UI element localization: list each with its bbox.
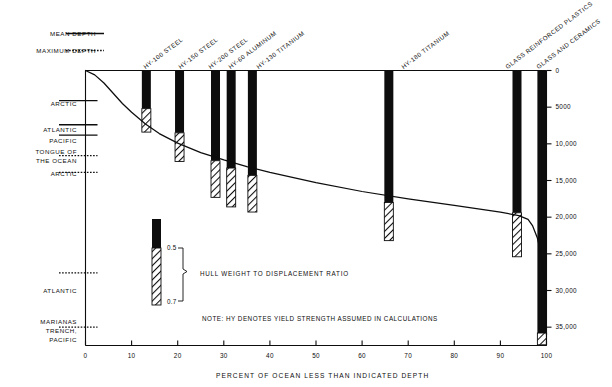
bars-layer — [142, 71, 547, 345]
bar-hatched-segment — [227, 168, 236, 207]
bar-hy-180-titanium — [384, 71, 393, 241]
bar-hatched-segment — [512, 213, 521, 257]
bar-solid-segment — [227, 71, 236, 169]
x-tick-10: 10 — [123, 352, 141, 359]
chart-note: NOTE: HY DENOTES YIELD STRENGTH ASSUMED … — [202, 315, 438, 322]
x-tick-90: 90 — [491, 352, 509, 359]
bar-hatched-segment — [384, 203, 393, 241]
ratio-legend-hatched-segment — [152, 248, 161, 305]
legend-mean-depth-label: MEAN DEPTH — [14, 30, 96, 37]
ratio-legend-solid-segment — [152, 219, 161, 248]
bar-solid-segment — [512, 71, 521, 213]
ratio-legend-graphic — [152, 219, 187, 305]
depth-label-atlantic-mean: ATLANTIC — [20, 126, 77, 133]
bar-solid-segment — [384, 71, 393, 203]
x-tick-70: 70 — [399, 352, 417, 359]
ratio-legend-caption: HULL WEIGHT TO DISPLACEMENT RATIO — [200, 270, 349, 277]
depth-label-marianas-line2: TRENCH, — [14, 327, 77, 334]
bar-hy-200-steel — [211, 71, 220, 198]
y-tick-20000: 20,000 — [556, 213, 577, 220]
bar-solid-segment — [211, 71, 220, 161]
bar-solid-segment — [175, 71, 184, 133]
y-tick-25000: 25,000 — [556, 250, 577, 257]
bar-hatched-segment — [142, 109, 151, 132]
depth-label-marianas-line1: MARIANAS — [14, 318, 77, 325]
depth-label-arctic-mean: ARCTIC — [20, 100, 77, 107]
depth-label-tongue-line1: TONGUE OF — [14, 148, 77, 155]
depth-label-tongue-line2: THE OCEAN — [14, 157, 77, 164]
legend-maximum-depth-label: MAXIMUM DEPTH — [2, 47, 96, 54]
bar-hy-150-steel — [175, 71, 184, 162]
bar-hatched-segment — [211, 161, 220, 198]
bar-hatched-segment — [175, 133, 184, 162]
bar-hy-60-aluminum — [227, 71, 236, 207]
x-tick-40: 40 — [261, 352, 279, 359]
y-tick-0: 0 — [556, 67, 560, 74]
x-tick-0: 0 — [77, 352, 95, 359]
y-tick-15000: 15,000 — [556, 177, 577, 184]
y-tick-10000: 10,000 — [556, 140, 577, 147]
bar-glass-reinforced-plastics — [512, 71, 521, 257]
bar-hy-130-titanium — [248, 71, 257, 213]
x-tick-60: 60 — [353, 352, 371, 359]
ocean-depth-materials-chart: MEAN DEPTH MAXIMUM DEPTH ARCTIC ATLANTIC… — [0, 0, 612, 387]
ratio-legend-bottom-value: 0.7 — [167, 298, 176, 305]
x-tick-30: 30 — [215, 352, 233, 359]
x-tick-50: 50 — [307, 352, 325, 359]
x-axis-title: PERCENT OF OCEAN LESS THAN INDICATED DEP… — [216, 372, 429, 379]
bar-solid-segment — [248, 71, 257, 176]
x-tick-20: 20 — [169, 352, 187, 359]
bar-hatched-segment — [248, 175, 257, 212]
x-tick-80: 80 — [445, 352, 463, 359]
depth-label-atlantic-max: ATLANTIC — [20, 287, 77, 294]
ratio-legend-brace — [178, 248, 187, 301]
y-tick-30000: 30,000 — [556, 287, 577, 294]
ratio-legend-top-value: 0.5 — [167, 244, 176, 251]
bar-hatched-segment — [537, 333, 546, 345]
depth-label-arctic-max: ARCTIC — [20, 170, 77, 177]
y-tick-35000: 35,000 — [556, 323, 577, 330]
bar-solid-segment — [142, 71, 151, 109]
depth-label-marianas-line3: PACIFIC — [14, 336, 77, 343]
x-tick-100: 100 — [538, 352, 556, 359]
y-tick-5000: 5000 — [556, 103, 571, 110]
depth-label-pacific-mean: PACIFIC — [20, 137, 77, 144]
